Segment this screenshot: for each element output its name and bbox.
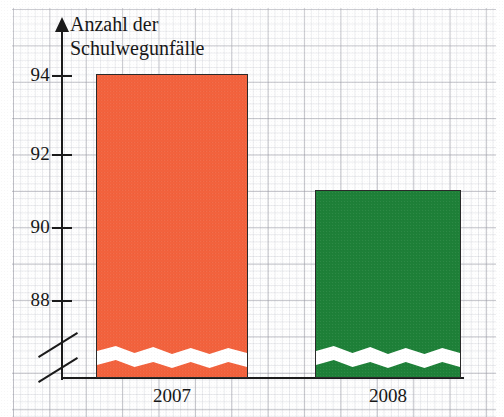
y-tick-label-88: 88 [31,290,50,309]
bar-texture-2007 [97,75,247,377]
bar-2007[interactable] [96,74,248,378]
y-axis-title-line1: Anzahl der [70,12,204,36]
y-tick-label-94: 94 [31,65,50,84]
x-tick-label-2007: 2007 [122,386,222,405]
bar-break-zigzag-2008 [316,343,460,377]
bar-break-zigzag-2007 [97,343,247,377]
y-tick-94 [52,75,72,77]
y-tick-90 [52,227,72,229]
y-axis-line [61,28,63,380]
y-tick-88 [52,300,72,302]
y-axis-title-line2: Schulwegunfälle [70,36,204,60]
y-tick-92 [52,154,72,156]
y-axis-arrow-icon [55,17,69,32]
y-tick-label-92: 92 [31,144,50,163]
y-tick-label-90: 90 [31,217,50,236]
bar-2008[interactable] [315,190,461,378]
chart-figure: 94 92 90 88 Anzahl der Schulwegunfälle 2… [0,0,504,417]
x-tick-label-2008: 2008 [338,386,438,405]
y-axis-title: Anzahl der Schulwegunfälle [70,12,204,61]
